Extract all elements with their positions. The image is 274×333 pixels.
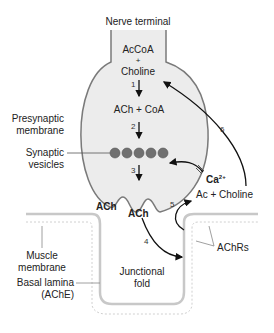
synaptic-vesicles: [110, 148, 168, 158]
ach-coa-label: ACh + CoA: [104, 104, 174, 116]
ach-left-label: ACh: [96, 201, 117, 213]
step-4: 4: [144, 237, 148, 246]
basal-lamina-label-1: Basal lamina: [2, 277, 74, 289]
synaptic-vesicles-label-2: vesicles: [4, 159, 64, 171]
achrs-label: AChRs: [217, 242, 249, 254]
basal-lamina-label-2: (AChE): [2, 289, 74, 301]
step-3: 3: [131, 166, 135, 175]
step-6: 6: [220, 125, 224, 134]
nerve-terminal-title: Nerve terminal: [100, 16, 176, 28]
ach-right-label: ACh: [128, 208, 149, 220]
ac-choline-label: Ac + Choline: [196, 189, 253, 201]
step-2: 2: [131, 122, 135, 131]
choline-label: Choline: [110, 66, 166, 78]
junctional-fold-label-1: Junctional: [112, 266, 172, 278]
step-5: 5: [170, 200, 174, 209]
muscle-membrane-label-1: Muscle: [14, 250, 70, 262]
calcium-label: Ca2+: [206, 171, 226, 186]
synaptic-vesicles-label-1: Synaptic: [4, 147, 64, 159]
presynaptic-label-1: Presynaptic: [4, 113, 64, 125]
junctional-fold-label-2: fold: [112, 278, 172, 290]
step-1: 1: [131, 80, 135, 89]
muscle-membrane-label-2: membrane: [14, 262, 70, 274]
presynaptic-label-2: membrane: [4, 125, 64, 137]
